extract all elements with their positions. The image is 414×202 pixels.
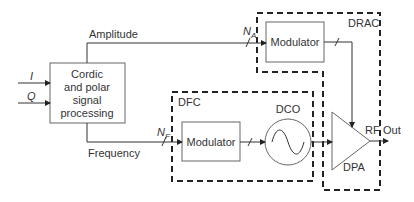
nf-label: NF bbox=[157, 126, 171, 141]
cordic-label-line-3: signal bbox=[73, 94, 102, 106]
dpa-label: DPA bbox=[343, 161, 365, 173]
drac-label: DRAC bbox=[348, 17, 379, 29]
q-input-label: Q bbox=[27, 90, 36, 102]
na-label: NA bbox=[243, 25, 256, 40]
rf-label: RF bbox=[365, 124, 380, 136]
amplitude-modulator-label: Modulator bbox=[271, 36, 320, 48]
out-label: Out bbox=[383, 124, 401, 136]
frequency-modulator-label: Modulator bbox=[187, 136, 236, 148]
dfc-label: DFC bbox=[178, 96, 201, 108]
amplitude-path bbox=[87, 43, 266, 63]
amp-mod-to-dpa-path bbox=[324, 42, 352, 127]
polar-transmitter-diagram: Cordic and polar signal processing I Q A… bbox=[0, 0, 414, 202]
cordic-label-line-2: and polar bbox=[64, 81, 110, 93]
amplitude-label: Amplitude bbox=[89, 28, 138, 40]
frequency-label: Frequency bbox=[88, 147, 140, 159]
cordic-label-line-1: Cordic bbox=[71, 68, 103, 80]
i-input-label: I bbox=[30, 70, 33, 82]
cordic-label-line-4: processing bbox=[60, 107, 113, 119]
dco-label: DCO bbox=[276, 103, 301, 115]
